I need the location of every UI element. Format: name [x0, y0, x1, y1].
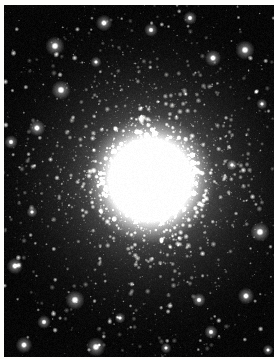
image-page	[0, 0, 274, 359]
globular-cluster-photograph	[4, 5, 274, 357]
cluster-star-field-canvas	[4, 5, 274, 357]
